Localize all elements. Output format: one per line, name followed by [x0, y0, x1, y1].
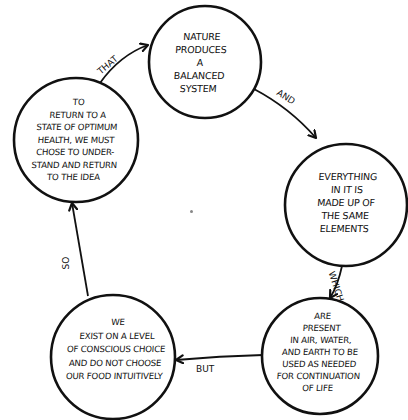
- center-dot: [190, 210, 193, 213]
- node-text-elements: Everything in it is made up of the same …: [296, 170, 397, 235]
- edge-but-arrow: [176, 355, 263, 360]
- edge-label-so: so: [61, 257, 71, 270]
- edge-label-but: but: [196, 364, 214, 374]
- node-text-choice: We exist on a level of conscious choice …: [56, 316, 177, 384]
- node-text-return: To return to a state of optimum health, …: [19, 96, 133, 184]
- node-text-present: Are present in air, water, and earth to …: [263, 310, 377, 394]
- edge-so-arrow: [72, 203, 88, 296]
- cycle-diagram: Nature produces a balanced system Everyt…: [0, 0, 408, 420]
- node-text-nature: Nature produces a balanced system: [158, 30, 243, 95]
